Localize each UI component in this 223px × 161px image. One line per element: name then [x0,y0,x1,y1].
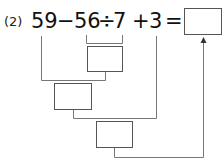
step3-box[interactable] [96,121,133,148]
arrow-up-icon [201,37,207,43]
step1-box[interactable] [87,46,123,72]
answer-box[interactable] [184,8,222,35]
step2-box[interactable] [54,83,92,110]
